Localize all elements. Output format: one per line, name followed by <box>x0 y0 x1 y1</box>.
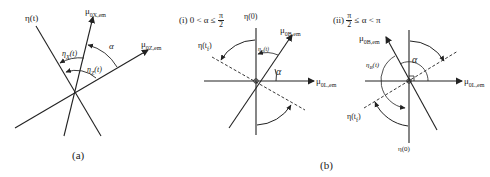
title-ii: (ii) π2 ≤ α < π <box>333 12 381 29</box>
label-mu-0x: μ0X,em <box>85 7 106 18</box>
title-ii-prefix: (ii) <box>333 15 344 25</box>
panel-b-ii <box>364 30 462 143</box>
mu-0l-subscript: 0L,em <box>469 82 485 88</box>
label-eta-x: ηX(t) <box>62 50 77 60</box>
frac-denominator: 2 <box>347 21 351 29</box>
label-alpha-ii: α <box>412 55 417 65</box>
label-eta-0-i: η(0) <box>244 13 258 21</box>
label-mu-0z: μ0Z,em <box>141 40 161 51</box>
eta-b-arc <box>381 56 405 108</box>
label-mu-0b-i: μ0B,em <box>280 26 301 37</box>
rotation-arc-lower <box>375 102 408 126</box>
eta-tf-close: ) <box>209 41 212 50</box>
label-mu-0b-ii: μ0B,em <box>359 34 380 45</box>
mu-0z-axis <box>15 50 148 128</box>
panel-a <box>15 17 148 136</box>
mu-0l-subscript: 0L,em <box>321 82 337 88</box>
frac-denominator: 2 <box>219 21 223 29</box>
eta-x-argument: (t) <box>70 49 78 58</box>
rotation-arc-lower <box>257 105 291 125</box>
eta-b-argument: (t) <box>263 46 269 52</box>
eta-z-argument: (t) <box>94 65 102 74</box>
panel-b-i <box>204 28 314 135</box>
pi-over-2: π2 <box>218 12 224 29</box>
label-eta-tf-ii: η(tf) <box>347 113 361 123</box>
title-ii-suffix: ≤ α < π <box>355 15 381 25</box>
pi-over-2: π2 <box>346 12 352 29</box>
label-mu-0l-ii: μ0L,em <box>464 77 484 88</box>
caption-b: (b) <box>320 160 333 171</box>
mu-0x-axis <box>64 17 93 136</box>
label-eta-z: ηZ(t) <box>87 66 102 76</box>
label-alpha-i: α <box>276 67 281 77</box>
label-alpha-a: α <box>109 42 114 51</box>
eta-b-argument: (t) <box>373 61 380 69</box>
label-eta-t: η(t) <box>25 14 38 23</box>
label-eta-b-ii: ηB(t) <box>366 62 379 70</box>
rotation-arc-upper <box>221 40 255 60</box>
label-eta-tf-i: η(tf) <box>198 42 212 52</box>
mu-0b-subscript: 0B,em <box>285 31 301 37</box>
eta-tf-text: η(t <box>198 41 207 50</box>
mu-0z-subscript: 0Z,em <box>146 45 162 51</box>
caption-a: (a) <box>72 150 84 161</box>
label-eta-0-ii: η(0) <box>398 146 410 153</box>
mu-0b-axis <box>386 37 437 130</box>
label-mu-0l-i: μ0L,em <box>316 77 336 88</box>
eta-tf-text: η(t <box>347 112 356 121</box>
title-i-prefix: (i) 0 < α ≤ <box>179 15 216 25</box>
title-i: (i) 0 < α ≤ π2 <box>179 12 224 29</box>
eta-tf-close: ) <box>358 112 361 121</box>
mu-0x-subscript: 0X,em <box>90 12 106 18</box>
label-eta-b-i: ηB(t) <box>258 46 269 54</box>
mu-0b-subscript: 0B,em <box>364 39 380 45</box>
